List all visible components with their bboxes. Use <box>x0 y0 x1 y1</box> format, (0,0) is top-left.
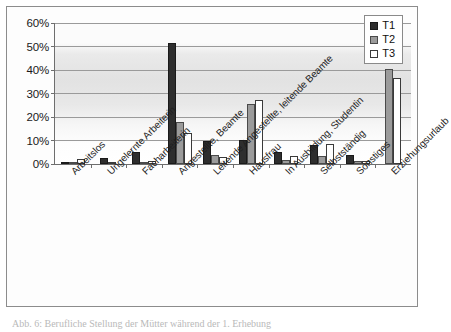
legend-item-t3[interactable]: T3 <box>370 48 395 59</box>
legend-label: T3 <box>382 48 395 59</box>
bar-T1 <box>100 158 108 164</box>
chart-legend: T1T2T3 <box>364 15 403 64</box>
legend-label: T1 <box>382 20 395 31</box>
y-axis-label: 30% <box>27 88 49 100</box>
y-axis-label: 40% <box>27 64 49 76</box>
figure-caption: Abb. 6: Berufliche Stellung der Mütter w… <box>12 318 417 329</box>
x-axis-labels: ArbeitslosUngelernte ArbeiterinFacharbei… <box>54 165 411 305</box>
bar-T3 <box>393 78 401 164</box>
legend-label: T2 <box>382 34 395 45</box>
legend-swatch-icon <box>370 22 378 30</box>
legend-swatch-icon <box>370 50 378 58</box>
y-axis-label: 10% <box>27 135 49 147</box>
chart-frame: 0%10%20%30%40%50%60% ArbeitslosUngelernt… <box>6 6 418 307</box>
legend-swatch-icon <box>370 36 378 44</box>
legend-item-t2[interactable]: T2 <box>370 34 395 45</box>
y-axis-label: 60% <box>27 17 49 29</box>
bar-T1 <box>346 155 354 164</box>
bar-group <box>55 23 91 164</box>
legend-item-t1[interactable]: T1 <box>370 20 395 31</box>
bar-T1 <box>61 162 69 164</box>
y-axis-label: 0% <box>33 158 49 170</box>
y-axis-label: 20% <box>27 111 49 123</box>
y-axis-label: 50% <box>27 41 49 53</box>
